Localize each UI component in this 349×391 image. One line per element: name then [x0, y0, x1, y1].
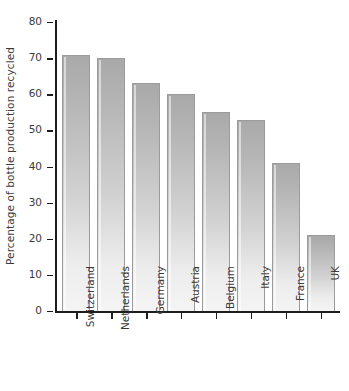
y-tick: 80 — [0, 22, 55, 23]
y-tick-label: 0 — [35, 304, 42, 316]
bar-highlight — [204, 114, 206, 311]
y-axis-line — [55, 20, 57, 313]
x-axis-label: Switzerland — [83, 266, 97, 386]
y-tick: 70 — [0, 58, 55, 59]
x-axis-label: Italy — [258, 266, 272, 386]
y-tick-label: 50 — [29, 123, 42, 135]
y-tick: 50 — [0, 130, 55, 131]
y-tick-mark — [47, 22, 53, 23]
y-tick-label: 70 — [29, 51, 42, 63]
bar-highlight — [274, 165, 276, 311]
y-tick-mark — [47, 58, 53, 59]
y-tick-label: 40 — [29, 160, 42, 172]
bar-highlight — [64, 57, 66, 311]
y-tick-mark — [47, 275, 53, 276]
y-tick-mark — [47, 239, 53, 240]
bar-highlight — [169, 96, 171, 311]
y-tick-label: 30 — [29, 196, 42, 208]
y-tick: 60 — [0, 94, 55, 95]
x-tick-mark — [216, 313, 217, 319]
x-tick-mark — [181, 313, 182, 319]
bar-chart: Percentage of bottle production recycled… — [0, 0, 349, 391]
y-tick-mark — [47, 94, 53, 95]
x-axis-label: Austria — [188, 266, 202, 386]
y-tick-label: 10 — [29, 268, 42, 280]
bar-highlight — [134, 85, 136, 311]
y-tick: 30 — [0, 203, 55, 204]
y-tick-label: 80 — [29, 15, 42, 27]
y-tick-label: 20 — [29, 232, 42, 244]
y-tick: 40 — [0, 167, 55, 168]
x-tick-mark — [111, 313, 112, 319]
y-tick: 10 — [0, 275, 55, 276]
x-tick-mark — [146, 313, 147, 319]
x-axis-label: France — [293, 266, 307, 386]
y-tick-label: 60 — [29, 87, 42, 99]
y-tick-mark — [47, 130, 53, 131]
x-tick-mark — [76, 313, 77, 319]
bar-highlight — [99, 60, 101, 311]
x-tick-mark — [321, 313, 322, 319]
x-axis-label: Belgium — [223, 266, 237, 386]
x-tick-mark — [251, 313, 252, 319]
bar-highlight — [239, 122, 241, 311]
x-axis-label: UK — [328, 266, 342, 386]
y-tick-mark — [47, 311, 53, 312]
y-tick: 0 — [0, 311, 55, 312]
x-axis-label: Netherlands — [118, 266, 132, 386]
bar-highlight — [309, 237, 311, 311]
y-tick: 20 — [0, 239, 55, 240]
y-axis-title: Percentage of bottle production recycled — [0, 0, 20, 312]
x-axis-label: Germany — [153, 266, 167, 386]
y-tick-mark — [47, 203, 53, 204]
y-tick-mark — [47, 167, 53, 168]
x-tick-mark — [286, 313, 287, 319]
